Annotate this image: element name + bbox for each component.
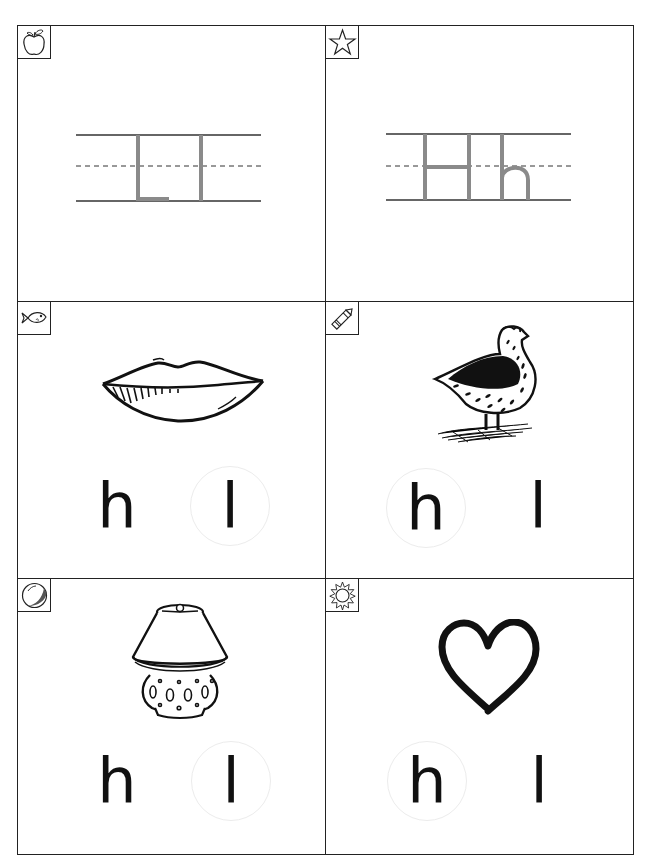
choice-l-circled[interactable]: l (190, 466, 270, 546)
card-hen: h l (325, 301, 634, 579)
choice-h[interactable]: h (77, 466, 157, 546)
trace-letter-uppercase (425, 134, 469, 200)
choice-letter: h (407, 750, 446, 812)
choice-l-circled[interactable]: l (191, 741, 271, 821)
tracing-guide-H (326, 26, 635, 303)
choice-h[interactable]: h (77, 741, 157, 821)
choice-letter: l (221, 475, 238, 537)
card-heart: h l (325, 578, 634, 855)
card-lamp: h l (17, 578, 326, 855)
trace-letter-lowercase (502, 134, 528, 200)
choice-h-circled[interactable]: h (386, 468, 466, 548)
choice-letter: h (406, 477, 445, 539)
card-trace-L (17, 25, 326, 302)
hen-picture (428, 324, 543, 444)
lamp-picture (130, 600, 230, 725)
choice-h-circled[interactable]: h (387, 741, 467, 821)
fish-icon (18, 302, 51, 335)
heart-picture (436, 619, 541, 724)
trace-letter-uppercase (136, 135, 169, 199)
crayon-icon (326, 302, 359, 335)
choice-letter: l (530, 750, 547, 812)
sun-icon (326, 579, 359, 612)
choice-l[interactable]: l (498, 466, 578, 546)
card-trace-H (325, 25, 634, 302)
card-lips: h l (17, 301, 326, 579)
tracing-guide-L (18, 26, 327, 303)
choice-letter: h (97, 750, 136, 812)
choice-letter: l (529, 475, 546, 537)
choice-l[interactable]: l (499, 741, 579, 821)
lips-picture (98, 357, 268, 432)
ball-icon (18, 579, 51, 612)
choice-letter: l (222, 750, 239, 812)
choice-letter: h (97, 475, 136, 537)
